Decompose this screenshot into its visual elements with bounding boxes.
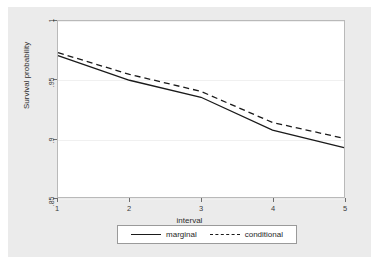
x-tick-mark xyxy=(201,198,202,202)
x-tick-label: 4 xyxy=(271,204,275,213)
y-axis-title: Survival probability xyxy=(22,42,31,109)
x-tick-label: 5 xyxy=(343,204,347,213)
plot-area xyxy=(57,20,345,198)
legend-item-conditional[interactable]: conditional xyxy=(210,230,283,239)
chart-legend: marginal conditional xyxy=(117,225,297,244)
y-tick-label: .9 xyxy=(48,137,55,157)
x-tick-label: 2 xyxy=(127,204,131,213)
x-axis-title: interval xyxy=(8,216,371,225)
x-tick-mark xyxy=(273,198,274,202)
series-line-marginal xyxy=(58,56,344,148)
x-tick-label: 3 xyxy=(199,204,203,213)
y-tick-label: .95 xyxy=(48,78,55,98)
x-tick-mark xyxy=(345,198,346,202)
legend-key-solid-icon xyxy=(131,234,161,235)
x-tick-mark xyxy=(57,198,58,202)
x-tick-label: 1 xyxy=(55,204,59,213)
y-tick-label: 1 xyxy=(48,19,55,39)
series-layer xyxy=(58,21,344,197)
y-tick-label: .85 xyxy=(48,197,55,217)
legend-label-conditional: conditional xyxy=(245,230,283,239)
legend-key-dashed-icon xyxy=(210,234,240,235)
legend-label-marginal: marginal xyxy=(166,230,197,239)
series-line-conditional xyxy=(58,53,344,139)
figure-canvas: 1.95.9.85 12345 Survival probability int… xyxy=(8,7,371,257)
x-tick-mark xyxy=(129,198,130,202)
legend-item-marginal[interactable]: marginal xyxy=(131,230,197,239)
